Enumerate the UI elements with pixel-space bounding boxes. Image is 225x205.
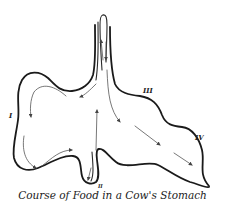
- compartment-label-i: I: [9, 112, 12, 119]
- figure-caption: Course of Food in a Cow's Stomach: [0, 189, 225, 201]
- stomach-illustration: [0, 0, 225, 205]
- compartment-label-iv: IV: [195, 134, 204, 141]
- stomach-diagram: I II III IV Course of Food in a Cow's St…: [0, 0, 225, 205]
- compartment-label-iii: III: [143, 87, 153, 94]
